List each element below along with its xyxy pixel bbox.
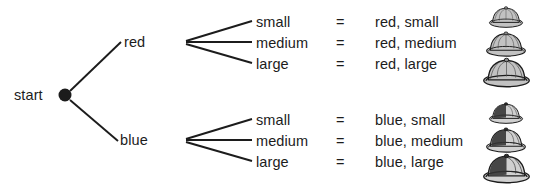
start-label: start — [14, 88, 43, 103]
equals-sign: = — [336, 55, 344, 73]
outcome-label: red, large — [375, 55, 437, 73]
edge-start-blue — [70, 100, 118, 141]
edge-blue-large — [186, 142, 252, 161]
edge-red-large — [186, 44, 252, 63]
outcome-label: blue, small — [375, 111, 445, 129]
edge-red-small — [186, 21, 252, 41]
equals-sign: = — [336, 153, 344, 171]
branch-label-red: red — [124, 35, 145, 50]
edge-blue-small — [186, 119, 252, 139]
size-label: small — [256, 111, 290, 129]
pith-helmet-icon — [477, 56, 536, 89]
pith-helmet-icon — [481, 30, 531, 58]
pith-helmet-icon — [485, 101, 527, 125]
outcome-label: blue, large — [375, 153, 444, 171]
equals-sign: = — [336, 132, 344, 150]
size-label: medium — [256, 34, 308, 52]
outcome-label: red, medium — [375, 34, 457, 52]
edge-start-red — [70, 42, 121, 91]
pith-helmet-icon — [481, 126, 531, 154]
size-label: medium — [256, 132, 308, 150]
size-label: small — [256, 13, 290, 31]
branch-label-blue: blue — [120, 133, 148, 148]
equals-sign: = — [336, 111, 344, 129]
pith-helmet-icon — [485, 5, 527, 29]
pith-helmet-icon — [477, 152, 536, 185]
size-label: large — [256, 153, 289, 171]
tree-diagram: start red blue small = red, small medium… — [0, 0, 543, 188]
size-label: large — [256, 55, 289, 73]
equals-sign: = — [336, 13, 344, 31]
equals-sign: = — [336, 34, 344, 52]
outcome-label: blue, medium — [375, 132, 463, 150]
outcome-label: red, small — [375, 13, 439, 31]
